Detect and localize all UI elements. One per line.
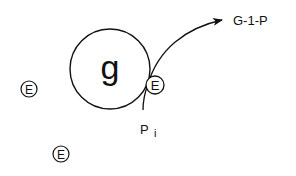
enzyme-free-left-label: E <box>25 83 33 97</box>
phosphate-label-subscript: i <box>154 127 156 139</box>
phosphate-label: P i <box>140 122 157 139</box>
glycogen-label: g <box>101 48 120 86</box>
enzyme-free-left: E <box>21 81 37 97</box>
glycogen-node: g <box>70 29 150 109</box>
phosphate-label-base: P <box>140 122 148 137</box>
enzyme-free-bottom-label: E <box>57 148 65 162</box>
product-label: G-1-P <box>233 13 268 28</box>
enzyme-bound: E <box>146 76 164 94</box>
diagram-canvas: g E E E G-1-P P i <box>0 0 296 176</box>
enzyme-bound-label: E <box>151 78 160 93</box>
enzyme-free-bottom: E <box>53 146 69 162</box>
product-arrow <box>148 20 222 84</box>
